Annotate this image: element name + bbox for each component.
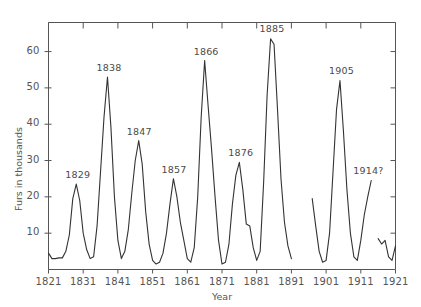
peak-label-1905: 1905 — [329, 65, 354, 76]
series-line-0 — [49, 39, 292, 264]
peak-label-1876: 1876 — [228, 147, 253, 158]
lynx-fur-chart: 1020304050601821183118411851186118711881… — [0, 0, 421, 307]
peak-label-1838: 1838 — [96, 62, 121, 73]
y-tick-label-10: 10 — [0, 226, 40, 237]
peak-label-1847: 1847 — [127, 126, 152, 137]
y-axis-title: Furs in thousands — [13, 127, 24, 211]
axes — [49, 23, 396, 270]
x-tick-label-1921: 1921 — [376, 276, 416, 287]
peak-label-1857: 1857 — [161, 164, 186, 175]
peak-label-1829: 1829 — [65, 169, 90, 180]
peak-label-1885: 1885 — [260, 23, 285, 34]
axis-ticks — [45, 23, 396, 274]
peak-label-1914: 1914? — [353, 165, 383, 176]
y-tick-label-60: 60 — [0, 45, 40, 56]
y-tick-label-50: 50 — [0, 81, 40, 92]
plot-frame — [49, 23, 396, 270]
series-line-2 — [378, 239, 395, 261]
peak-label-1866: 1866 — [194, 46, 219, 57]
x-axis-title: Year — [9, 291, 421, 302]
